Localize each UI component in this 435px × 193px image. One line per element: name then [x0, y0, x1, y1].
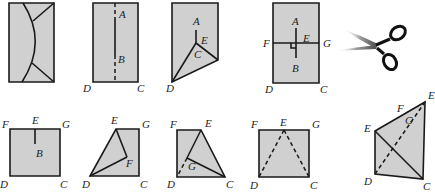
- point-label: E: [204, 117, 212, 129]
- point-label: E: [427, 89, 435, 101]
- point-label: C: [310, 179, 318, 191]
- point-label: D: [0, 178, 8, 190]
- panel-step9: EFGEDC: [363, 89, 435, 192]
- panel-step8: FEGDC: [249, 116, 320, 191]
- point-label: E: [200, 34, 208, 46]
- point-label: A: [291, 15, 299, 27]
- point-label: B: [36, 147, 43, 159]
- upper-blade: [343, 29, 378, 47]
- point-label: C: [60, 178, 68, 190]
- point-label: G: [323, 37, 331, 49]
- point-label: G: [405, 114, 413, 126]
- paper-shape: [259, 130, 309, 177]
- point-label: C: [226, 178, 234, 190]
- upper-handle-arm: [376, 39, 390, 45]
- point-label: G: [142, 118, 150, 130]
- panel-step6: EGFDC: [81, 114, 150, 190]
- point-label: F: [262, 37, 270, 49]
- scissors-icon: [336, 23, 408, 71]
- panel-step5: FEGBDC: [0, 114, 70, 190]
- panel-step1: [9, 3, 54, 82]
- upper-handle-ring: [388, 23, 408, 42]
- point-label: C: [423, 180, 431, 192]
- point-label: F: [396, 102, 404, 114]
- point-label: F: [125, 157, 133, 169]
- point-label: E: [279, 116, 287, 128]
- point-label: D: [81, 178, 90, 190]
- lower-handle-arm: [377, 48, 384, 54]
- point-label: D: [82, 82, 91, 94]
- point-label: A: [192, 15, 200, 27]
- point-label: B: [118, 53, 125, 65]
- point-label: E: [302, 32, 310, 44]
- point-label: D: [249, 179, 258, 191]
- point-label: D: [165, 82, 174, 94]
- point-label: E: [110, 114, 118, 126]
- point-label: G: [312, 118, 320, 130]
- point-label: F: [1, 118, 9, 130]
- lower-blade: [336, 45, 377, 51]
- folding-diagram: ABDCAECDAFEGBDCFEGBDCEGFDCFEGDCFEGDCEFGE…: [0, 0, 435, 193]
- point-label: D: [264, 83, 273, 95]
- panel-step4: AFEGBDC: [262, 3, 331, 95]
- point-label: E: [31, 114, 39, 126]
- point-label: D: [363, 175, 372, 187]
- point-label: C: [140, 178, 148, 190]
- point-label: G: [62, 118, 70, 130]
- panel-step7: FEGDC: [166, 117, 234, 190]
- point-label: G: [188, 160, 196, 172]
- point-label: F: [250, 118, 258, 130]
- panel-step3: AECD: [165, 3, 218, 94]
- lower-handle-ring: [381, 52, 399, 72]
- paper-shape: [9, 3, 54, 82]
- point-label: D: [166, 178, 175, 190]
- panel-step2: ABDC: [82, 3, 145, 94]
- paper-shape: [177, 130, 225, 177]
- point-label: A: [118, 8, 126, 20]
- point-label: C: [194, 48, 202, 60]
- panels: ABDCAECDAFEGBDCFEGBDCEGFDCFEGDCFEGDCEFGE…: [0, 3, 435, 192]
- point-label: C: [137, 82, 145, 94]
- point-label: E: [363, 122, 371, 134]
- point-label: C: [320, 83, 328, 95]
- point-label: B: [292, 62, 299, 74]
- point-label: F: [169, 118, 177, 130]
